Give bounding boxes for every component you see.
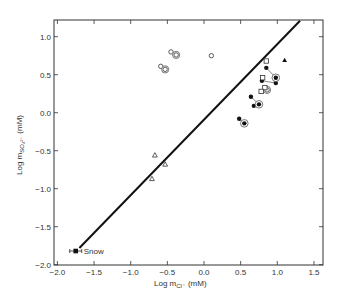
y-axis-label: Log mSO₄²⁻(mM) xyxy=(15,115,25,175)
x-tick-label: 0.0 xyxy=(198,268,210,277)
scatter-chart: −2.0−1.5−1.0−0.50.00.51.01.5 −2.0−1.5−1.… xyxy=(0,0,342,300)
filled-triangle-point xyxy=(282,58,287,62)
open-square-point xyxy=(264,59,268,63)
data-points xyxy=(70,50,287,254)
y-tick-label: 0.5 xyxy=(40,71,52,80)
double-filled-circle-inner xyxy=(274,76,278,80)
open-triangle-point xyxy=(152,153,157,157)
plot-frame xyxy=(54,20,323,265)
x-tick-label: −1.5 xyxy=(86,268,102,277)
y-tick-label: −2.0 xyxy=(35,261,51,270)
x-axis-label: Log mCl⁻(mM) xyxy=(154,279,207,289)
y-tick-label: −0.5 xyxy=(35,147,51,156)
y-tick-label: 1.0 xyxy=(40,33,52,42)
open-circle-point xyxy=(209,54,213,58)
open-square-point xyxy=(260,76,264,80)
y-tick-label: −1.0 xyxy=(35,185,51,194)
x-tick-label: 1.0 xyxy=(272,268,284,277)
reference-line xyxy=(79,21,300,248)
y-tick-label: 0.0 xyxy=(40,109,52,118)
y-axis-ticks: −2.0−1.5−1.0−0.50.00.51.0 xyxy=(35,33,323,270)
filled-circle-point xyxy=(264,66,268,70)
filled-circle-point xyxy=(237,117,241,121)
x-axis-ticks: −2.0−1.5−1.0−0.50.00.51.01.5 xyxy=(50,20,321,277)
double-filled-circle-inner xyxy=(257,102,261,106)
snow-annotation: Snow xyxy=(84,247,104,256)
x-tick-label: −2.0 xyxy=(50,268,66,277)
y-tick-label: −1.5 xyxy=(35,223,51,232)
double-open-circle-inner xyxy=(163,67,167,71)
open-triangle-point xyxy=(150,176,155,180)
x-tick-label: 1.5 xyxy=(308,268,320,277)
open-square-point xyxy=(259,89,263,93)
x-tick-label: −0.5 xyxy=(159,268,175,277)
snow-point xyxy=(73,249,78,254)
double-open-circle-inner xyxy=(174,53,178,57)
connector-lines xyxy=(239,68,276,123)
filled-circle-point xyxy=(249,95,253,99)
double-filled-circle-inner xyxy=(242,121,246,125)
x-tick-label: 0.5 xyxy=(235,268,247,277)
x-tick-label: −1.0 xyxy=(123,268,139,277)
